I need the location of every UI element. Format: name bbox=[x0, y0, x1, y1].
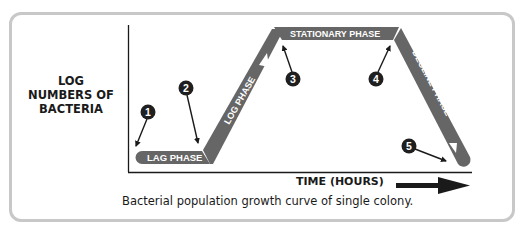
log-phase-band: LOG PHASE bbox=[203, 29, 284, 164]
time-arrow-icon bbox=[396, 177, 470, 194]
marker-5: 5 bbox=[402, 139, 447, 162]
marker-2: 2 bbox=[179, 81, 199, 144]
marker-1-number: 1 bbox=[145, 106, 151, 118]
lag-phase-label: LAG PHASE bbox=[147, 152, 202, 163]
marker-5-number: 5 bbox=[406, 140, 412, 152]
marker-4: 4 bbox=[369, 46, 391, 87]
stationary-phase-label: STATIONARY PHASE bbox=[290, 29, 380, 39]
marker-3: 3 bbox=[283, 46, 301, 87]
marker-4-number: 4 bbox=[373, 73, 379, 85]
figure-caption: Bacterial population growth curve of sin… bbox=[122, 194, 413, 208]
lag-phase-band: LAG PHASE bbox=[136, 151, 210, 164]
marker-2-number: 2 bbox=[183, 82, 189, 94]
x-axis-label: TIME (HOURS) bbox=[296, 175, 384, 188]
log-phase-label: LOG PHASE bbox=[222, 75, 257, 126]
marker-1: 1 bbox=[136, 105, 156, 147]
marker-3-number: 3 bbox=[290, 73, 296, 85]
stationary-phase-band: STATIONARY PHASE bbox=[274, 27, 399, 40]
